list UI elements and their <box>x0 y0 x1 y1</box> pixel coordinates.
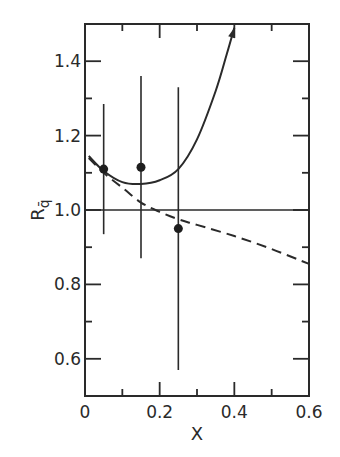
chart-canvas: 00.20.40.60.60.81.01.21.4 X Rq̄ <box>0 0 340 457</box>
x-tick-label: 0.4 <box>221 402 248 422</box>
y-axis-title-main: R <box>27 208 48 221</box>
y-axis-title-subscript: q̄ <box>36 199 52 208</box>
x-tick-label: 0.6 <box>295 402 322 422</box>
arrowhead-icon <box>228 28 235 39</box>
y-tick-label: 0.8 <box>54 274 81 294</box>
y-tick-label: 1.2 <box>54 126 81 146</box>
x-tick-label: 0.2 <box>146 402 173 422</box>
x-axis-title: X <box>191 423 203 444</box>
y-axis-title: Rq̄ <box>27 199 52 220</box>
dashed-curve <box>89 158 309 264</box>
axis-tick-labels: 00.20.40.60.60.81.01.21.4 <box>54 51 323 422</box>
y-tick-label: 1.0 <box>54 200 81 220</box>
solid-curve <box>89 28 235 184</box>
data-point <box>174 224 183 233</box>
y-tick-label: 1.4 <box>54 51 81 71</box>
data-point <box>99 165 108 174</box>
y-tick-label: 0.6 <box>54 349 81 369</box>
error-bars <box>104 76 179 370</box>
svg-text:Rq̄: Rq̄ <box>27 199 52 220</box>
data-point <box>137 163 146 172</box>
x-tick-label: 0 <box>80 402 91 422</box>
